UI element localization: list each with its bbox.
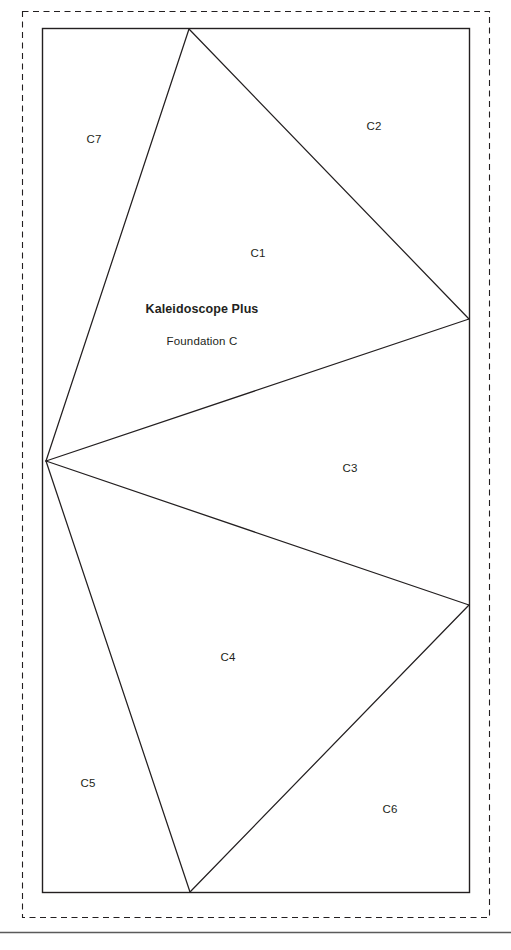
section-label-c7: C7 [86, 134, 101, 146]
section-label-c6: C6 [382, 804, 397, 816]
section-label-c2: C2 [366, 121, 381, 133]
section-label-c3: C3 [342, 463, 357, 475]
pattern-block-outline [43, 29, 470, 893]
pattern-subtitle: Foundation C [146, 335, 259, 347]
section-label-c5: C5 [80, 778, 95, 790]
foundation-pattern-drawing [0, 0, 511, 950]
pattern-title: Kaleidoscope Plus [146, 302, 259, 316]
pattern-title-block: Kaleidoscope Plus Foundation C [146, 302, 259, 347]
section-label-c4: C4 [220, 652, 235, 664]
pattern-page: C7 C2 C1 C3 C4 C5 C6 Kaleidoscope Plus F… [0, 0, 511, 950]
section-label-c1: C1 [250, 248, 265, 260]
